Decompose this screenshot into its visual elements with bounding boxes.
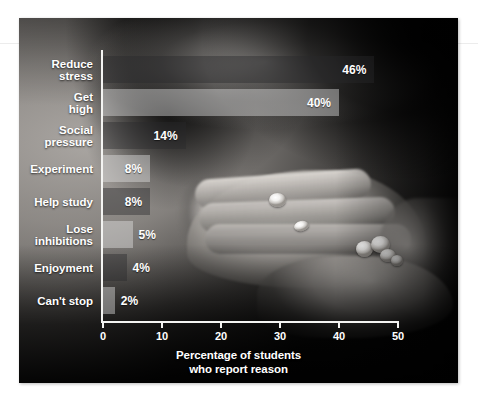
x-axis-tick: [220, 321, 222, 328]
bar-value-label: 46%: [342, 63, 366, 77]
bar: 46%: [103, 56, 374, 83]
y-axis-line: [101, 50, 103, 322]
x-axis-tick: [102, 321, 104, 328]
bar: 8%: [103, 155, 150, 182]
figure-root: 46%40%14%8%8%5%4%2% Reduce stressGet hig…: [0, 0, 478, 398]
bar-value-label: 4%: [133, 261, 150, 275]
photo-plate: 46%40%14%8%8%5%4%2% Reduce stressGet hig…: [19, 18, 458, 383]
x-axis-tick-label: 50: [392, 330, 404, 342]
x-axis-title: Percentage of students who report reason: [19, 348, 458, 376]
bar: 5%: [103, 221, 133, 248]
x-axis-tick: [397, 321, 399, 328]
x-axis-tick-label: 0: [100, 330, 106, 342]
bar-value-label: 14%: [154, 129, 178, 143]
x-axis-tick-label: 30: [274, 330, 286, 342]
x-axis-tick-label: 10: [156, 330, 168, 342]
bar: 14%: [103, 122, 186, 149]
category-label: Help study: [19, 196, 93, 208]
bar: 2%: [103, 287, 115, 314]
x-axis-tick-label: 20: [215, 330, 227, 342]
category-label: Experiment: [19, 163, 93, 175]
category-label: Social pressure: [19, 124, 93, 148]
bar-value-label: 8%: [125, 162, 142, 176]
bar: 8%: [103, 188, 150, 215]
x-axis-tick: [279, 321, 281, 328]
bar: 4%: [103, 254, 127, 281]
bar-value-label: 8%: [125, 195, 142, 209]
bar: 40%: [103, 89, 339, 116]
x-axis-tick: [161, 321, 163, 328]
x-axis-tick: [338, 321, 340, 328]
category-label: Get high: [19, 91, 93, 115]
x-axis-line: [101, 321, 398, 323]
category-label: Reduce stress: [19, 58, 93, 82]
bar-chart: 46%40%14%8%8%5%4%2% Reduce stressGet hig…: [19, 18, 458, 383]
bar-value-label: 5%: [139, 228, 156, 242]
category-label: Enjoyment: [19, 262, 93, 274]
category-label: Lose inhibitions: [19, 223, 93, 247]
category-label: Can't stop: [19, 295, 93, 307]
scan-artifact-line-left: [0, 43, 19, 44]
x-axis-tick-label: 40: [333, 330, 345, 342]
bar-value-label: 2%: [121, 294, 138, 308]
bar-value-label: 40%: [307, 96, 331, 110]
